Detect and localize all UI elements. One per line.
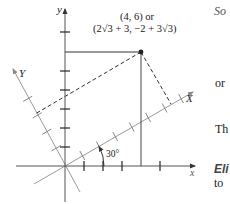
projection-to-rotated-x bbox=[141, 52, 171, 104]
rotated-x-axis-label: X bbox=[186, 93, 193, 104]
side-text-line2: or bbox=[215, 76, 225, 91]
rotated-y-ticks bbox=[23, 96, 61, 151]
y-axis-label: y bbox=[57, 4, 62, 15]
projection-to-rotated-y bbox=[35, 52, 141, 114]
side-text-line5: to bbox=[214, 176, 223, 191]
rotated-y-axis bbox=[13, 69, 80, 192]
rotated-x-ticks bbox=[80, 94, 183, 160]
side-text-line3: Th bbox=[215, 122, 228, 137]
point-label-line1: (4, 6) or bbox=[120, 12, 154, 23]
rotated-x-axis bbox=[34, 92, 193, 184]
point-marker bbox=[139, 50, 144, 55]
side-text-line4: Eli bbox=[214, 162, 229, 176]
side-text-line1: So bbox=[214, 4, 226, 19]
rotated-y-axis-label: Y bbox=[19, 68, 25, 79]
angle-label: 30° bbox=[106, 150, 119, 160]
rotated-axes-figure: (4, 6) or (2√3 + 3, −2 + 3√3) y x X Y 30… bbox=[0, 0, 230, 204]
point-label-line2: (2√3 + 3, −2 + 3√3) bbox=[93, 24, 177, 35]
x-axis-label: x bbox=[190, 168, 194, 178]
